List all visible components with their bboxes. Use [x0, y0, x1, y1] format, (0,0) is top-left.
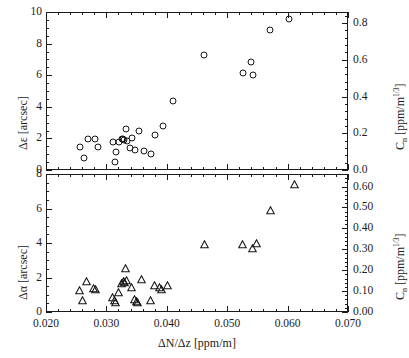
axis-tick	[345, 82, 348, 83]
axis-tick	[336, 309, 337, 312]
axis-tick	[167, 306, 168, 312]
axis-tick	[46, 183, 49, 184]
data-point-circle	[131, 147, 138, 154]
axis-tick	[342, 207, 348, 208]
axis-tick	[345, 253, 348, 254]
bottom-panel-plot-frame	[46, 174, 348, 312]
y-tick-label: 10	[31, 6, 43, 18]
axis-tick	[46, 52, 49, 53]
axis-tick	[143, 174, 144, 177]
axis-tick	[345, 308, 348, 309]
axis-tick	[345, 67, 348, 68]
axis-tick	[70, 174, 71, 177]
axis-tick	[191, 12, 192, 15]
axis-tick	[345, 191, 348, 192]
axis-tick	[263, 309, 264, 312]
axis-tick	[58, 174, 59, 177]
y-tick-label: 2	[36, 272, 42, 284]
data-point-circle	[247, 58, 254, 65]
axis-tick	[203, 174, 204, 177]
axis-tick	[345, 148, 348, 149]
axis-tick	[46, 91, 49, 92]
axis-tick	[46, 286, 49, 287]
axis-tick	[345, 299, 348, 300]
axis-tick	[345, 174, 348, 175]
axis-tick	[46, 44, 52, 45]
axis-tick	[342, 97, 348, 98]
x-tick-label: 0.020	[33, 318, 59, 330]
axis-tick	[345, 279, 348, 280]
axis-tick	[46, 20, 49, 21]
top-panel-plot-frame	[46, 12, 348, 170]
axis-tick	[336, 167, 337, 170]
x-tick-label: 0.030	[93, 318, 119, 330]
axis-tick	[82, 309, 83, 312]
axis-tick	[345, 199, 348, 200]
axis-tick	[342, 187, 348, 188]
axis-tick	[345, 274, 348, 275]
axis-tick	[345, 262, 348, 263]
axis-tick	[288, 164, 289, 170]
axis-tick	[46, 67, 49, 68]
axis-tick	[276, 12, 277, 15]
bottom-panel-right-axis-title: Cn [ppm/m1/3]	[392, 233, 409, 300]
axis-tick	[345, 224, 348, 225]
axis-tick	[215, 167, 216, 170]
axis-tick	[46, 146, 49, 147]
axis-tick	[46, 75, 52, 76]
axis-tick	[191, 309, 192, 312]
axis-tick	[143, 309, 144, 312]
axis-tick	[70, 167, 71, 170]
axis-tick	[345, 89, 348, 90]
axis-tick	[300, 12, 301, 15]
axis-tick	[300, 174, 301, 177]
axis-tick	[106, 174, 107, 180]
axis-tick	[324, 309, 325, 312]
axis-tick	[46, 226, 49, 227]
axis-tick	[336, 12, 337, 15]
data-point-circle	[249, 72, 256, 79]
axis-tick	[46, 59, 49, 60]
axis-tick	[46, 170, 52, 171]
axis-tick	[179, 12, 180, 15]
axis-tick	[46, 243, 52, 244]
axis-tick	[342, 133, 348, 134]
axis-tick	[70, 309, 71, 312]
axis-tick	[46, 12, 52, 13]
axis-tick	[106, 12, 107, 18]
axis-tick	[94, 167, 95, 170]
axis-tick	[94, 309, 95, 312]
axis-tick	[345, 52, 348, 53]
axis-tick	[345, 104, 348, 105]
axis-tick	[46, 269, 49, 270]
y-tick-label: 8	[36, 168, 42, 180]
right-tick-label: 0.4	[353, 91, 367, 103]
axis-tick	[288, 174, 289, 180]
axis-tick	[155, 174, 156, 177]
axis-tick	[143, 12, 144, 15]
axis-tick	[251, 12, 252, 15]
axis-tick	[46, 252, 49, 253]
axis-tick	[276, 167, 277, 170]
x-tick-label: 0.050	[214, 318, 240, 330]
axis-tick	[345, 155, 348, 156]
axis-tick	[288, 306, 289, 312]
x-tick-label: 0.070	[335, 318, 361, 330]
axis-tick	[46, 260, 49, 261]
axis-tick	[131, 167, 132, 170]
right-tick-label: 0.0	[353, 164, 367, 176]
axis-tick	[46, 83, 49, 84]
axis-tick	[70, 12, 71, 15]
top-panel-plot-area	[47, 13, 347, 169]
axis-tick	[46, 312, 52, 313]
x-axis-title: ΔN/Δz [ppm/m]	[158, 336, 236, 351]
data-point-circle	[239, 70, 246, 77]
bottom-panel-y-axis-title: Δα [arcsec]	[16, 245, 31, 300]
axis-tick	[324, 174, 325, 177]
axis-tick	[342, 23, 348, 24]
axis-tick	[143, 167, 144, 170]
axis-tick	[345, 163, 348, 164]
axis-tick	[312, 12, 313, 15]
axis-tick	[345, 266, 348, 267]
axis-tick	[342, 170, 348, 171]
